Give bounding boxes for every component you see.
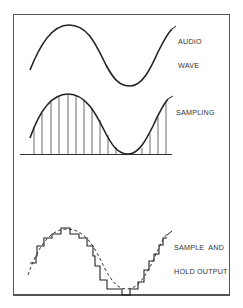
sample-and-hold-panel xyxy=(28,228,172,295)
sample-and-hold-leader xyxy=(167,231,172,235)
audio-wave-curve xyxy=(30,25,172,86)
audio-wave-leader xyxy=(172,26,176,29)
audio-wave-panel xyxy=(30,25,176,86)
sampling-panel xyxy=(20,94,173,155)
sample-and-hold-label: SAMPLE AND HOLD OUTPUT xyxy=(174,228,228,284)
sample-and-hold-staircase xyxy=(30,228,167,295)
sample-and-hold-label-line-1: SAMPLE AND xyxy=(174,244,228,252)
audio-wave-label-line-1: AUDIO xyxy=(178,38,202,46)
sampling-leader xyxy=(168,96,173,99)
audio-wave-label-line-2: WAVE xyxy=(178,62,202,70)
sampling-pulses xyxy=(34,94,166,154)
audio-wave-label: AUDIO WAVE xyxy=(178,22,202,78)
sample-and-hold-label-line-2: HOLD OUTPUT xyxy=(174,268,228,276)
sampling-label-line-1: SAMPLING xyxy=(176,109,215,117)
sampling-label: SAMPLING xyxy=(176,93,215,125)
